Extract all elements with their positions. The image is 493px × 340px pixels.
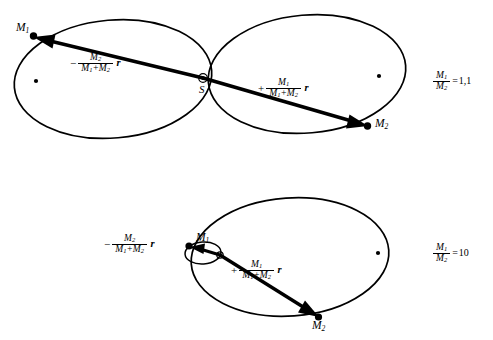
top-panel-graphics (9, 7, 411, 147)
top-vector-expression-m2: + M1 M1+M2 r (258, 78, 309, 99)
bottom-vector-expression-m2: + M1 M1+M2 r (231, 260, 282, 281)
top-vector-expression-m1: − M2 M1+M2 r (70, 53, 121, 74)
bottom-mass-ratio-label: M1 M2 = 10 (432, 237, 469, 264)
top-mass-ratio-label: M1 M2 = 1,1 (432, 65, 471, 92)
bottom-panel-graphics (184, 191, 393, 323)
top-body-dot-m1 (30, 32, 37, 39)
top-body-dot-m2 (364, 122, 371, 129)
bottom-vector-expression-m1: − M2 M1+M2 r (104, 234, 155, 255)
top-label-m1: M1 (16, 22, 29, 34)
bottom-label-m1: M1 (196, 232, 209, 244)
bottom-focus-dot-large (376, 251, 380, 255)
top-focus-dot-right (377, 74, 381, 78)
bottom-body-dot-m1 (185, 242, 192, 249)
top-barycenter-core (201, 76, 205, 80)
bottom-label-m2: M2 (312, 320, 325, 332)
figure-canvas (0, 0, 493, 340)
top-orbit-ellipse-left (9, 12, 217, 147)
top-focus-dot-left (34, 79, 38, 83)
orbit-diagram-figure: M1 M2 S − M2 M1+M2 r + M1 M1+M2 r (0, 0, 493, 340)
top-label-barycenter-s: S (199, 84, 205, 95)
bottom-barycenter-core (219, 254, 222, 257)
top-label-m2: M2 (375, 118, 388, 130)
